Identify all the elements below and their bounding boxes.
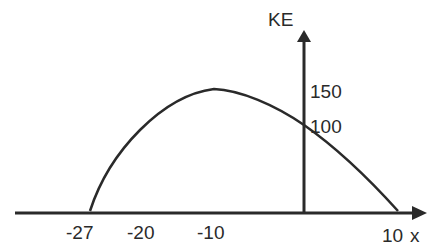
y-axis-label: KE bbox=[268, 9, 293, 30]
x-tick-label: 10 bbox=[382, 225, 403, 246]
x-axis-arrow-icon bbox=[412, 206, 427, 220]
y-tick-label: 100 bbox=[310, 116, 342, 137]
x-tick-label: -27 bbox=[66, 222, 93, 243]
x-tick-label: -20 bbox=[127, 222, 154, 243]
y-axis-arrow-icon bbox=[297, 30, 311, 42]
x-tick-label: -10 bbox=[197, 222, 224, 243]
y-tick-label: 150 bbox=[310, 81, 342, 102]
ke-vs-x-chart: KE x -27 -20 -10 10 150 100 bbox=[0, 0, 435, 251]
ke-curve bbox=[90, 89, 398, 211]
x-axis-label: x bbox=[410, 225, 420, 246]
